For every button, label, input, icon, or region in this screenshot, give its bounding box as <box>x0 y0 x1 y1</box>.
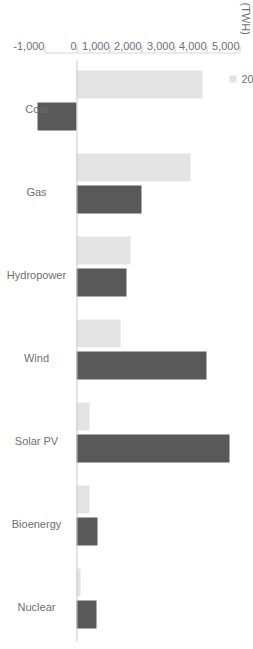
bar-group: Gas <box>44 143 239 226</box>
axis-tick-label: 1,000 <box>81 41 109 52</box>
axis-tick-label: 0 <box>70 41 76 52</box>
bar-hydropower-2000~2019[interactable] <box>76 236 130 264</box>
bar-bioenergy-2019~2040[interactable] <box>76 517 97 545</box>
category-label: Coal <box>25 102 48 114</box>
bar-gas-2000~2019[interactable] <box>76 153 190 181</box>
bar-solar-pv-2000~2019[interactable] <box>76 402 89 430</box>
bar-group: Coal <box>44 60 239 143</box>
bar-group: Bioenergy <box>44 475 239 558</box>
category-label: Solar PV <box>14 434 57 446</box>
category-label: Wind <box>23 351 48 363</box>
legend-label: 2000~2019 <box>241 72 253 84</box>
bar-coal-2000~2019[interactable] <box>76 70 201 98</box>
axis-tick-label: 3,000 <box>146 41 174 52</box>
bar-nuclear-2019~2040[interactable] <box>76 600 96 628</box>
axis-tick <box>76 46 77 52</box>
axis-tick-label: -1,000 <box>13 41 44 52</box>
category-label: Gas <box>26 185 46 197</box>
category-label: Hydropower <box>6 268 65 280</box>
axis-tick <box>207 46 208 52</box>
zero-baseline <box>76 60 77 641</box>
bar-solar-pv-2019~2040[interactable] <box>76 434 229 462</box>
bar-group: Solar PV <box>44 392 239 475</box>
bar-chart-figure: (TWH) 2000~20192019~2040 5,0004,0003,000… <box>0 0 253 649</box>
bar-group: Nuclear <box>44 558 239 641</box>
bar-wind-2000~2019[interactable] <box>76 319 120 347</box>
bar-wind-2019~2040[interactable] <box>76 351 206 379</box>
category-label: Bioenergy <box>11 517 61 529</box>
y-axis-unit-label: (TWH) <box>239 2 251 34</box>
axis-tick-label: 5,000 <box>211 41 239 52</box>
bar-group: Wind <box>44 309 239 392</box>
bar-groups: CoalGasHydropowerWindSolar PVBioenergyNu… <box>44 60 239 641</box>
value-axis: 5,0004,0003,0002,0001,0000-1,000 <box>44 0 239 50</box>
axis-tick <box>142 46 143 52</box>
bar-group: Hydropower <box>44 226 239 309</box>
category-label: Nuclear <box>17 600 55 612</box>
axis-tick-label: 2,000 <box>114 41 142 52</box>
bar-bioenergy-2000~2019[interactable] <box>76 485 89 513</box>
value-axis-line <box>44 52 239 53</box>
axis-tick-label: 4,000 <box>179 41 207 52</box>
plot-area: CoalGasHydropowerWindSolar PVBioenergyNu… <box>44 60 239 641</box>
bar-gas-2019~2040[interactable] <box>76 185 141 213</box>
chart-canvas: (TWH) 2000~20192019~2040 5,0004,0003,000… <box>0 0 253 649</box>
bar-hydropower-2019~2040[interactable] <box>76 268 125 296</box>
